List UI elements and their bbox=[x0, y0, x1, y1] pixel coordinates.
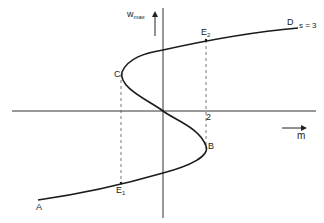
x-axis-label: m bbox=[297, 131, 305, 141]
x-tick-2: 2 bbox=[206, 113, 211, 122]
point-label-d: D bbox=[287, 18, 294, 27]
point-label-b: B bbox=[208, 142, 214, 151]
point-label-a: A bbox=[36, 203, 42, 212]
point-e2-marker bbox=[205, 39, 207, 41]
point-label-e2: E2 bbox=[201, 28, 210, 38]
e2-subscript: 2 bbox=[207, 32, 210, 38]
s-curve bbox=[38, 28, 298, 200]
point-label-c: C bbox=[114, 70, 121, 79]
parameter-annotation: s = 3 bbox=[299, 22, 317, 30]
y-axis-label: wmax bbox=[127, 10, 145, 20]
point-label-e1: E1 bbox=[116, 186, 125, 196]
diagram-canvas bbox=[0, 0, 324, 223]
point-e1-marker bbox=[120, 182, 122, 184]
e1-subscript: 1 bbox=[122, 190, 125, 196]
w-max-arrowhead-icon bbox=[152, 11, 158, 17]
y-label-subscript: max bbox=[134, 14, 145, 20]
